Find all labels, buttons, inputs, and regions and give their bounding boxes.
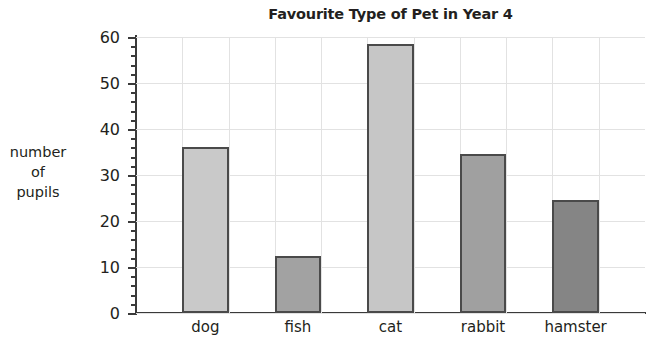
x-tick-label-rabbit: rabbit (461, 318, 505, 336)
y-axis-label-line-3: pupils (2, 182, 74, 202)
gridline-vertical (321, 37, 322, 313)
x-tick-label-fish: fish (285, 318, 312, 336)
y-tick-label-20: 20 (78, 212, 120, 231)
y-tick-label-60: 60 (78, 28, 120, 47)
chart-title: Favourite Type of Pet in Year 4 (136, 6, 645, 22)
bar-chart: Favourite Type of Pet in Year 4 number o… (0, 0, 651, 340)
y-axis-label-line-1: number (2, 142, 74, 162)
bar-cat (367, 44, 413, 313)
y-tick-label-50: 50 (78, 74, 120, 93)
x-tick-label-dog: dog (191, 318, 219, 336)
y-tick-label-30: 30 (78, 166, 120, 185)
gridline-vertical (414, 37, 415, 313)
bar-rabbit (460, 154, 506, 313)
x-tick-label-hamster: hamster (544, 318, 606, 336)
x-tick-label-cat: cat (379, 318, 402, 336)
y-axis-label-line-2: of (2, 162, 74, 182)
y-axis-label: number of pupils (2, 142, 74, 202)
gridline-vertical (229, 37, 230, 313)
plot-area (136, 37, 645, 313)
bar-dog (182, 147, 228, 313)
gridline-vertical (506, 37, 507, 313)
gridline-vertical (599, 37, 600, 313)
y-tick-label-10: 10 (78, 258, 120, 277)
gridline-horizontal (136, 313, 645, 314)
y-tick-label-40: 40 (78, 120, 120, 139)
bar-hamster (552, 200, 598, 313)
y-tick-label-0: 0 (78, 304, 120, 323)
gridline-horizontal (136, 37, 645, 38)
y-axis-tick-labels: 0102030405060 (78, 0, 120, 340)
bar-fish (275, 256, 321, 314)
